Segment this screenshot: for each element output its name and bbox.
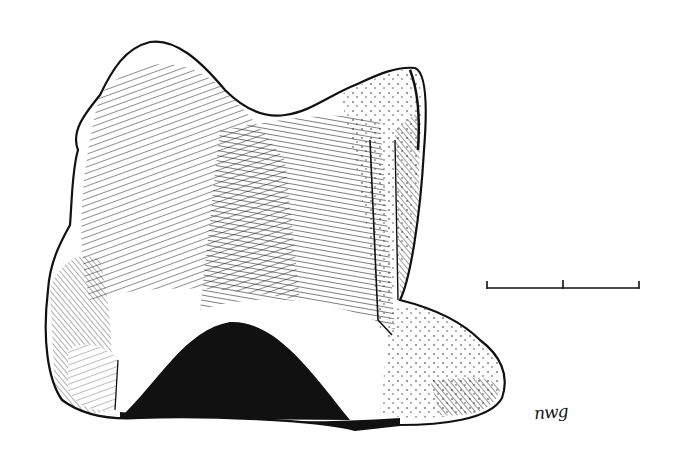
specimen-illustration <box>0 0 679 450</box>
bone-body <box>0 0 679 450</box>
scale-bar <box>487 280 639 289</box>
artist-signature: nwg <box>533 401 568 423</box>
